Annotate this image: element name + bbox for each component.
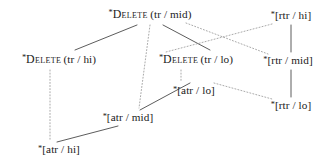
- node-constraint-name: Delete: [26, 52, 61, 66]
- node-constraint-args: (tr / hi): [64, 53, 97, 65]
- node-atr-hi: *[atr / hi]: [38, 144, 80, 155]
- node-constraint-name: Delete: [113, 7, 148, 21]
- edge-delete-tr-mid-to-delete-tr-lo: [163, 25, 210, 50]
- edge-rtr-hi-to-delete-tr-lo: [166, 24, 272, 52]
- node-delete-tr-hi: *Delete (tr / hi): [22, 54, 96, 66]
- node-constraint-args: [atr / mid]: [107, 111, 153, 123]
- node-delete-tr-mid: *Delete (tr / mid): [108, 9, 191, 21]
- edge-atr-lo-to-rtr-lo: [214, 83, 272, 99]
- node-constraint-args: [rtr / hi]: [275, 9, 311, 21]
- node-rtr-mid: *[rtr / mid]: [263, 55, 312, 66]
- node-delete-tr-lo: *Delete (tr / lo): [159, 54, 233, 66]
- node-rtr-lo: *[rtr / lo]: [271, 100, 312, 111]
- constraint-ranking-lattice: *Delete (tr / mid)*Delete (tr / hi)*Dele…: [0, 0, 329, 168]
- node-constraint-args: (tr / lo): [201, 53, 234, 65]
- node-constraint-args: [rtr / mid]: [267, 54, 312, 66]
- edge-atr-hi-to-atr-mid: [57, 126, 118, 142]
- edge-delete-tr-mid-to-rtr-mid: [186, 23, 268, 54]
- edge-delete-tr-mid-to-delete-tr-hi: [75, 25, 137, 50]
- edges-group: [50, 23, 291, 142]
- node-constraint-args: [atr / hi]: [42, 143, 80, 155]
- node-constraint-args: [atr / lo]: [177, 84, 215, 96]
- node-constraint-args: [rtr / lo]: [275, 99, 311, 111]
- node-constraint-name: Delete: [163, 52, 198, 66]
- node-constraint-args: (tr / mid): [150, 8, 191, 20]
- node-atr-mid: *[atr / mid]: [103, 112, 154, 123]
- node-rtr-hi: *[rtr / hi]: [271, 10, 312, 21]
- node-atr-lo: *[atr / lo]: [173, 85, 215, 96]
- edge-delete-tr-mid-to-atr-mid: [139, 25, 150, 108]
